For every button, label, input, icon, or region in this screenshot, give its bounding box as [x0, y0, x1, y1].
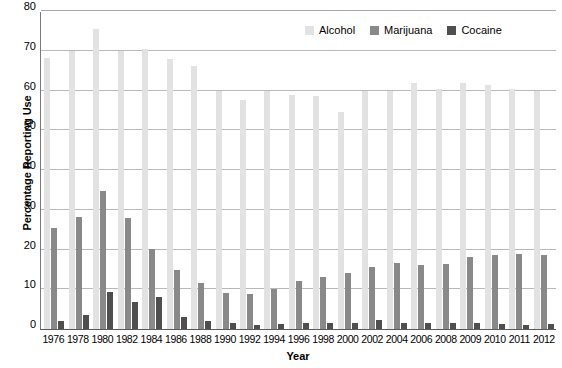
- bar-group-2011: [507, 12, 531, 329]
- bar-marijuana-2010: [492, 255, 498, 329]
- x-tick-label-1988: 1988: [188, 332, 213, 346]
- x-tick-label-2006: 2006: [409, 332, 434, 346]
- legend-item-alcohol: Alcohol: [305, 24, 355, 36]
- bar-marijuana-1978: [76, 217, 82, 329]
- bar-group-1976: [42, 12, 66, 329]
- bar-marijuana-1982: [125, 218, 131, 329]
- bar-alcohol-1984: [142, 49, 148, 329]
- x-tick-label-1980: 1980: [90, 332, 115, 346]
- bar-marijuana-1980: [100, 191, 106, 329]
- bar-alcohol-2008: [436, 89, 442, 329]
- bar-alcohol-2000: [338, 112, 344, 329]
- legend-item-marijuana: Marijuana: [370, 24, 432, 36]
- bar-cocaine-2009: [474, 323, 480, 329]
- bar-group-1980: [91, 12, 115, 329]
- bar-cocaine-1986: [181, 317, 187, 329]
- bar-marijuana-1998: [320, 277, 326, 329]
- bar-marijuana-2006: [418, 265, 424, 329]
- bar-chart: Percentage Reporting Use 010203040506070…: [0, 0, 562, 368]
- bar-alcohol-1994: [264, 91, 270, 330]
- x-tick-label-1994: 1994: [262, 332, 287, 346]
- bar-cocaine-2011: [523, 325, 529, 329]
- bar-alcohol-1976: [44, 58, 50, 329]
- bar-group-1992: [238, 12, 262, 329]
- y-tick-label-30: 30: [4, 200, 36, 211]
- bar-alcohol-1982: [118, 51, 124, 329]
- x-tick-label-2008: 2008: [434, 332, 459, 346]
- bar-marijuana-2009: [467, 257, 473, 329]
- bar-marijuana-1992: [247, 294, 253, 329]
- y-axis-tick-labels: 01020304050607080: [0, 12, 36, 330]
- bar-cocaine-1984: [156, 297, 162, 329]
- bar-alcohol-2006: [411, 83, 417, 329]
- bar-alcohol-2002: [362, 91, 368, 330]
- x-tick-label-1992: 1992: [237, 332, 262, 346]
- bar-alcohol-1980: [93, 29, 99, 329]
- bar-alcohol-2012: [534, 91, 540, 330]
- bar-group-2002: [360, 12, 384, 329]
- chart-legend: AlcoholMarijuanaCocaine: [305, 24, 511, 36]
- x-tick-label-2000: 2000: [335, 332, 360, 346]
- bar-group-1988: [189, 12, 213, 329]
- x-tick-label-2004: 2004: [384, 332, 409, 346]
- bar-cocaine-2008: [450, 323, 456, 329]
- bar-group-1996: [287, 12, 311, 329]
- bar-cocaine-2010: [499, 324, 505, 329]
- y-tick-label-80: 80: [4, 1, 36, 12]
- bar-group-1984: [140, 12, 164, 329]
- bar-marijuana-2008: [443, 264, 449, 329]
- bar-cocaine-2004: [401, 323, 407, 329]
- x-axis-tick-labels: 1976197819801982198419861988199019921994…: [41, 332, 556, 346]
- bar-cocaine-1998: [327, 323, 333, 329]
- bar-group-1998: [311, 12, 335, 329]
- bar-marijuana-1988: [198, 283, 204, 329]
- bar-alcohol-1978: [69, 51, 75, 329]
- bar-group-1978: [66, 12, 90, 329]
- bar-group-2008: [434, 12, 458, 329]
- bar-alcohol-1986: [167, 59, 173, 329]
- bar-cocaine-1990: [230, 323, 236, 329]
- y-tick-label-0: 0: [4, 319, 36, 330]
- bar-cocaine-1980: [107, 292, 113, 329]
- legend-swatch-marijuana-icon: [370, 26, 379, 35]
- x-tick-label-1986: 1986: [164, 332, 189, 346]
- x-axis-title: Year: [40, 350, 556, 362]
- x-tick-label-2009: 2009: [458, 332, 483, 346]
- bar-alcohol-2010: [485, 85, 491, 329]
- bar-group-1982: [115, 12, 139, 329]
- legend-item-cocaine: Cocaine: [447, 24, 501, 36]
- bar-group-2004: [385, 12, 409, 329]
- bar-marijuana-2000: [345, 273, 351, 329]
- y-tick-label-70: 70: [4, 41, 36, 52]
- bar-marijuana-2012: [541, 255, 547, 329]
- bar-marijuana-2011: [516, 254, 522, 329]
- legend-swatch-cocaine-icon: [447, 26, 456, 35]
- bar-cocaine-2006: [425, 323, 431, 329]
- legend-label-alcohol: Alcohol: [319, 24, 355, 36]
- bar-alcohol-2011: [509, 89, 515, 329]
- bar-group-2012: [531, 12, 555, 329]
- bar-cocaine-1996: [303, 323, 309, 329]
- bar-alcohol-1998: [313, 96, 319, 329]
- bar-group-1990: [213, 12, 237, 329]
- bar-marijuana-1976: [51, 228, 57, 329]
- bar-cocaine-1988: [205, 321, 211, 329]
- x-tick-label-2011: 2011: [507, 332, 532, 346]
- bar-marijuana-1984: [149, 249, 155, 329]
- x-tick-label-1982: 1982: [115, 332, 140, 346]
- bar-alcohol-1990: [216, 91, 222, 330]
- bar-group-2006: [409, 12, 433, 329]
- bar-marijuana-1990: [223, 293, 229, 329]
- bar-marijuana-2004: [394, 263, 400, 329]
- legend-swatch-alcohol-icon: [305, 26, 314, 35]
- bar-alcohol-2009: [460, 83, 466, 329]
- bar-groups: [42, 12, 556, 329]
- x-tick-label-1998: 1998: [311, 332, 336, 346]
- bar-cocaine-1978: [83, 315, 89, 329]
- legend-label-cocaine: Cocaine: [461, 24, 501, 36]
- bar-marijuana-1994: [271, 289, 277, 329]
- bar-group-1986: [164, 12, 188, 329]
- x-tick-label-1984: 1984: [139, 332, 164, 346]
- bar-marijuana-1996: [296, 281, 302, 329]
- x-tick-label-2012: 2012: [532, 332, 557, 346]
